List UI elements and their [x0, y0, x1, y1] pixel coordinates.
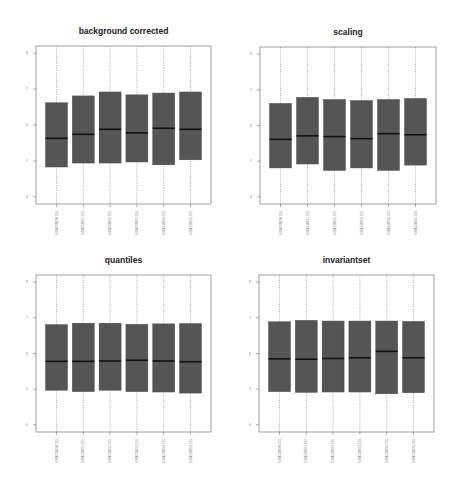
y-tick-label: 8: [26, 280, 28, 284]
y-tick-label: 7: [249, 316, 251, 320]
y-tick-label: 8: [26, 51, 28, 55]
x-tick-label: GSM238992.CEL: [108, 438, 112, 463]
x-tick-label: GSM238994.CEL: [387, 210, 391, 235]
y-tick-label: 7: [250, 88, 252, 92]
x-tick-label: GSM238991.CEL: [81, 210, 85, 235]
x-tick-label: GSM238990.CEL: [278, 438, 282, 463]
box: [269, 322, 291, 392]
y-tick-label: 7: [26, 87, 28, 91]
x-tick-label: GSM238991.CEL: [304, 438, 308, 463]
boxplot-figure: background corrected 45678GSM238990.CELG…: [0, 0, 456, 489]
x-tick-label: GSM238993.CEL: [135, 438, 139, 463]
box: [72, 96, 94, 163]
x-tick-label: GSM238993.CEL: [360, 210, 364, 235]
x-tick-label: GSM238994.CEL: [385, 438, 389, 463]
x-tick-label: GSM238992.CEL: [331, 438, 335, 463]
y-tick-label: 5: [26, 159, 28, 163]
box: [153, 324, 175, 392]
y-tick-label: 8: [250, 52, 252, 56]
box: [295, 320, 317, 392]
y-tick-label: 4: [250, 195, 252, 199]
x-tick-label: GSM238995.CEL: [414, 210, 418, 235]
box: [46, 103, 68, 167]
x-tick-label: GSM238993.CEL: [358, 438, 362, 463]
y-tick-label: 6: [26, 352, 28, 356]
x-tick-label: GSM238993.CEL: [135, 210, 139, 235]
x-tick-label: GSM238990.CEL: [55, 438, 59, 463]
box: [322, 321, 344, 392]
x-tick-label: GSM238992.CEL: [108, 210, 112, 235]
y-tick-label: 5: [250, 159, 252, 163]
x-tick-label: GSM238995.CEL: [189, 210, 193, 235]
box: [378, 99, 400, 170]
figure-background: [0, 0, 456, 489]
y-tick-label: 5: [249, 387, 251, 391]
box: [351, 101, 373, 168]
box: [126, 95, 148, 162]
box: [270, 103, 292, 168]
y-tick-label: 5: [26, 387, 28, 391]
y-tick-label: 6: [26, 123, 28, 127]
box: [99, 92, 121, 163]
x-tick-label: GSM238994.CEL: [162, 210, 166, 235]
box: [99, 323, 121, 390]
box: [72, 323, 94, 392]
box: [376, 321, 398, 394]
panel-title: quantiles: [105, 255, 143, 265]
x-tick-label: GSM238991.CEL: [81, 438, 85, 463]
y-tick-label: 4: [26, 423, 28, 427]
box: [349, 321, 371, 392]
y-tick-label: 8: [249, 280, 251, 284]
x-tick-label: GSM238994.CEL: [162, 438, 166, 463]
y-tick-label: 6: [250, 124, 252, 128]
box: [405, 98, 427, 165]
box: [297, 97, 319, 164]
x-tick-label: GSM238990.CEL: [279, 210, 283, 235]
x-tick-label: GSM238990.CEL: [55, 210, 59, 235]
y-tick-label: 4: [249, 423, 251, 427]
x-tick-label: GSM238995.CEL: [189, 438, 193, 463]
box: [180, 324, 202, 394]
panel-title: invariantset: [323, 255, 371, 265]
x-tick-label: GSM238995.CEL: [412, 438, 416, 463]
panel-title: scaling: [333, 27, 362, 37]
panel-title: background corrected: [79, 26, 169, 36]
box: [46, 325, 68, 391]
box: [180, 92, 202, 160]
y-tick-label: 6: [249, 352, 251, 356]
box: [324, 99, 346, 170]
x-tick-label: GSM238991.CEL: [306, 210, 310, 235]
box: [126, 324, 148, 391]
y-tick-label: 4: [26, 195, 28, 199]
x-tick-label: GSM238992.CEL: [333, 210, 337, 235]
y-tick-label: 7: [26, 316, 28, 320]
